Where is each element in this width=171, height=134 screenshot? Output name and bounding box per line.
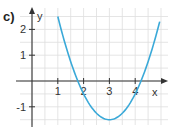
y-tick-label: 1 [20, 49, 26, 61]
y-axis-arrow-icon [29, 7, 35, 14]
x-tick-label: 1 [55, 85, 61, 97]
x-axis-label: x [152, 86, 158, 98]
y-tick-label: 2 [20, 23, 26, 35]
y-tick-label: -1 [16, 101, 26, 113]
x-axis-arrow-icon [161, 78, 168, 84]
y-axis-label: y [37, 10, 43, 22]
x-tick-label: 3 [106, 85, 112, 97]
part-label: c) [3, 9, 15, 24]
parabola-chart: 1234-112 c) y x [0, 0, 171, 134]
